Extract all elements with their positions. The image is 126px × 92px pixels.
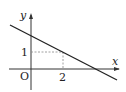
y-axis-arrow-icon (29, 13, 33, 19)
y-tick-label: 1 (21, 46, 28, 59)
origin-label: O (20, 70, 29, 83)
x-axis-label: x (112, 55, 119, 68)
x-tick-label: 2 (59, 71, 66, 84)
y-axis-label: y (19, 9, 27, 22)
coordinate-diagram: y x O 1 2 (0, 0, 126, 92)
